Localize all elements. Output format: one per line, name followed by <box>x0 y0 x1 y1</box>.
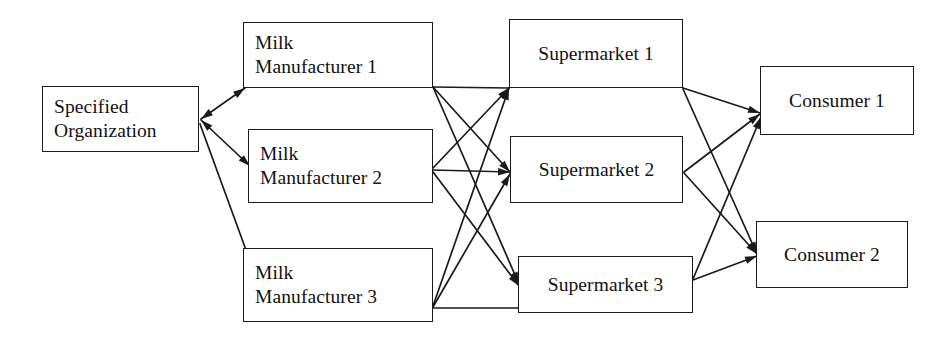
edge-mm2-to-sm2 <box>433 168 510 175</box>
node-label-supermarket-2: Supermarket 2 <box>539 158 655 182</box>
edge-mm3-to-sm2 <box>433 174 510 307</box>
edge-org-to-mm1 <box>201 88 245 119</box>
edge-sm3-to-con2 <box>693 256 757 280</box>
node-label-supermarket-3: Supermarket 3 <box>548 273 664 297</box>
edge-mm3-to-sm1 <box>433 88 509 306</box>
edge-sm2-to-con2 <box>684 173 757 254</box>
node-specified-organization[interactable]: Specified Organization <box>42 86 199 152</box>
node-label-consumer-2: Consumer 2 <box>784 243 880 267</box>
node-label-specified-organization: Specified Organization <box>54 95 157 143</box>
supply-chain-diagram: Specified OrganizationMilk Manufacturer … <box>0 0 952 337</box>
edge-mm1-to-sm3 <box>433 87 519 284</box>
edge-mm2-to-sm3 <box>433 172 519 286</box>
edge-sm2-to-con1 <box>684 114 760 172</box>
node-milk-manufacturer-3[interactable]: Milk Manufacturer 3 <box>243 248 433 322</box>
node-consumer-2[interactable]: Consumer 2 <box>756 221 908 288</box>
node-supermarket-3[interactable]: Supermarket 3 <box>518 256 693 313</box>
edge-sm3-to-con1 <box>693 117 761 279</box>
edge-org-to-mm3 <box>200 124 246 250</box>
edge-sm1-to-con2 <box>683 89 757 254</box>
edge-mm1-to-sm1 <box>433 87 509 88</box>
node-supermarket-1[interactable]: Supermarket 1 <box>509 19 683 88</box>
edge-mm1-to-sm2 <box>433 87 510 172</box>
node-label-milk-manufacturer-2: Milk Manufacturer 2 <box>260 142 382 190</box>
edge-mm2-to-sm1 <box>433 88 509 168</box>
node-supermarket-2[interactable]: Supermarket 2 <box>510 136 683 203</box>
edge-org-to-mm2 <box>201 120 250 166</box>
edge-sm1-to-con1 <box>683 88 760 113</box>
node-label-consumer-1: Consumer 1 <box>789 89 885 113</box>
node-consumer-1[interactable]: Consumer 1 <box>760 66 914 135</box>
node-milk-manufacturer-1[interactable]: Milk Manufacturer 1 <box>243 22 433 88</box>
node-milk-manufacturer-2[interactable]: Milk Manufacturer 2 <box>248 129 433 203</box>
node-label-milk-manufacturer-1: Milk Manufacturer 1 <box>255 31 377 79</box>
node-label-supermarket-1: Supermarket 1 <box>538 42 654 66</box>
node-label-milk-manufacturer-3: Milk Manufacturer 3 <box>255 261 377 309</box>
